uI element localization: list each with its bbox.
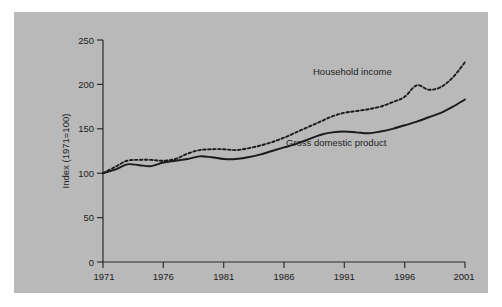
chart-figure: 250 200 150 100 50 0 Index (1971=100) [0,0,502,307]
y-axis-ticks [97,40,103,262]
household-income-label: Household income [313,66,392,77]
x-axis: 1971 1976 1981 1986 1991 1996 2001 [93,262,474,282]
x-axis-ticks [103,262,465,268]
y-tick-label-250: 250 [78,35,94,46]
y-axis-tick-labels: 250 200 150 100 50 0 [78,35,94,268]
series-gross-domestic-product-line [103,100,465,174]
y-tick-label-0: 0 [89,257,94,268]
x-tick-label-1986: 1986 [273,271,294,282]
x-tick-label-2001: 2001 [453,271,474,282]
y-tick-label-150: 150 [78,123,94,134]
y-axis: 250 200 150 100 50 0 Index (1971=100) [60,35,103,268]
x-tick-label-1991: 1991 [334,271,355,282]
series-household-income-line [103,62,465,173]
x-axis-tick-labels: 1971 1976 1981 1986 1991 1996 2001 [93,271,474,282]
gross-domestic-product-label: Gross domestic product [286,137,387,148]
y-tick-label-100: 100 [78,168,94,179]
y-tick-label-50: 50 [83,212,94,223]
series-paths [103,62,465,173]
y-axis-title: Index (1971=100) [60,114,71,189]
line-chart: 250 200 150 100 50 0 Index (1971=100) [0,0,502,307]
x-tick-label-1971: 1971 [93,271,114,282]
x-tick-label-1981: 1981 [213,271,234,282]
x-tick-label-1996: 1996 [394,271,415,282]
y-tick-label-200: 200 [78,79,94,90]
x-tick-label-1976: 1976 [153,271,174,282]
